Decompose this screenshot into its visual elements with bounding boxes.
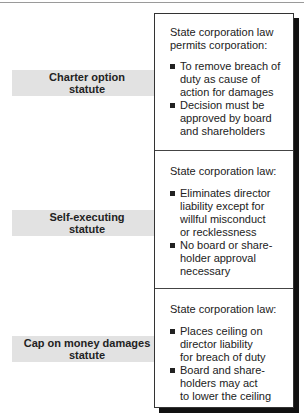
square-bullet-icon (170, 103, 175, 108)
bullet-line: willful misconduct (180, 213, 266, 225)
panel-self-executing: State corporation law: Eliminates direct… (155, 150, 293, 288)
bullet-line: holder approval (180, 252, 256, 264)
heading-line: State corporation law: (170, 303, 276, 315)
arrow-cap-on-money-damages-statute: Cap on money damagesstatute (12, 336, 170, 362)
panel-heading: State corporation law: (170, 303, 285, 316)
bullet-list: Eliminates director liability except for… (170, 187, 285, 278)
bullet-item: Board and share- holders may act to lowe… (170, 364, 285, 403)
bullet-line: for breach of duty (180, 351, 266, 363)
panel-cap-on-money-damages: State corporation law: Places ceiling on… (155, 288, 293, 407)
bullet-line: action for damages (180, 86, 274, 98)
bullet-item: No board or share- holder approval neces… (170, 239, 285, 278)
arrow-label-line: Charter option (49, 71, 125, 83)
bullet-line: To remove breach of (180, 60, 280, 72)
panel-charter-option: State corporation law permits corporatio… (155, 14, 293, 150)
arrow-label: Self-executingstatute (12, 210, 162, 236)
bullet-list: To remove breach of duty as cause of act… (170, 60, 285, 138)
panel-heading: State corporation law: (170, 165, 285, 178)
bullet-line: director liability (180, 338, 253, 350)
arrow-label-line: Cap on money damages (24, 337, 151, 349)
bullet-list: Places ceiling on director liability for… (170, 325, 285, 403)
arrow-self-executing-statute: Self-executingstatute (12, 210, 170, 236)
bullet-line: Eliminates director (180, 187, 270, 199)
law-description-box: State corporation law permits corporatio… (154, 13, 294, 408)
arrow-charter-option-statute: Charter optionstatute (12, 70, 170, 96)
arrow-label: Cap on money damagesstatute (12, 336, 162, 362)
arrow-label-line: Self-executing (49, 211, 124, 223)
bullet-line: Board and share- (180, 364, 265, 376)
bullet-line: holders may act (180, 377, 258, 389)
bullet-line: duty as cause of (180, 73, 260, 85)
square-bullet-icon (170, 243, 175, 248)
heading-line: State corporation law (170, 26, 273, 38)
square-bullet-icon (170, 191, 175, 196)
heading-line: permits corporation: (170, 39, 267, 51)
bullet-item: Places ceiling on director liability for… (170, 325, 285, 364)
bullet-line: Decision must be (180, 99, 264, 111)
bullet-line: to lower the ceiling (180, 390, 271, 402)
bullet-item: Eliminates director liability except for… (170, 187, 285, 239)
bullet-item: Decision must be approved by board and s… (170, 99, 285, 138)
arrow-label-line: statute (69, 223, 105, 235)
bullet-line: No board or share- (180, 239, 272, 251)
square-bullet-icon (170, 368, 175, 373)
bullet-item: To remove breach of duty as cause of act… (170, 60, 285, 99)
arrow-label-line: statute (69, 349, 105, 361)
top-rule (0, 2, 304, 3)
bullet-line: liability except for (180, 200, 264, 212)
arrow-label: Charter optionstatute (12, 70, 162, 96)
panel-heading: State corporation law permits corporatio… (170, 26, 285, 52)
bullet-line: Places ceiling on (180, 325, 263, 337)
bullet-line: and shareholders (180, 125, 265, 137)
bullet-line: approved by board (180, 112, 272, 124)
bullet-line: necessary (180, 265, 230, 277)
arrow-label-line: statute (69, 83, 105, 95)
square-bullet-icon (170, 329, 175, 334)
heading-line: State corporation law: (170, 165, 276, 177)
bullet-line: or recklessness (180, 226, 256, 238)
square-bullet-icon (170, 64, 175, 69)
